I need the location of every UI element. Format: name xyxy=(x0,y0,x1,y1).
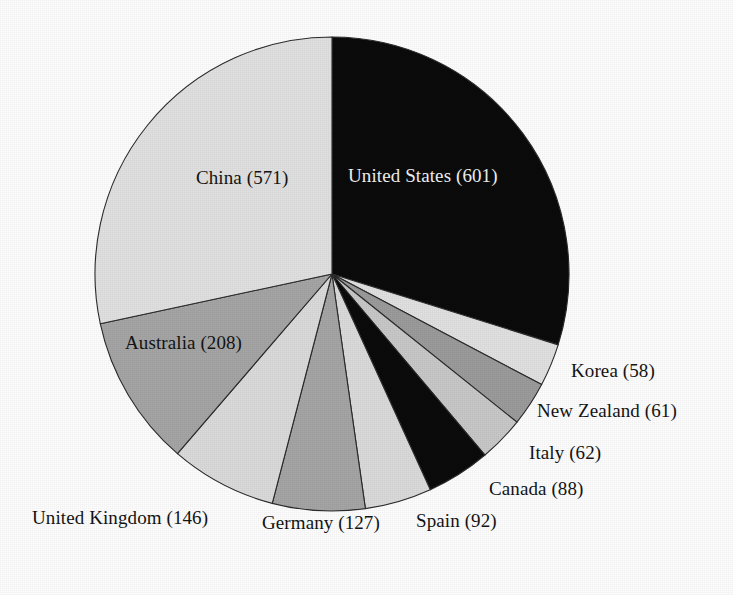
pie-chart-figure: United States (601)Korea (58)New Zealand… xyxy=(0,0,733,595)
pie-label-italy: Italy (62) xyxy=(529,443,601,464)
pie-label-korea: Korea (58) xyxy=(571,361,655,382)
pie-chart-svg: United States (601)Korea (58)New Zealand… xyxy=(0,0,733,595)
pie-label-spain: Spain (92) xyxy=(416,511,497,532)
pie-label-united-states: United States (601) xyxy=(348,166,498,187)
pie-label-united-kingdom: United Kingdom (146) xyxy=(32,508,208,529)
pie-label-germany: Germany (127) xyxy=(262,513,380,534)
pie-label-china: China (571) xyxy=(196,168,288,189)
pie-label-new-zealand: New Zealand (61) xyxy=(537,401,677,422)
pie-slices-group: United States (601)Korea (58)New Zealand… xyxy=(95,37,569,511)
pie-label-canada: Canada (88) xyxy=(489,479,583,500)
pie-label-australia: Australia (208) xyxy=(125,333,242,354)
